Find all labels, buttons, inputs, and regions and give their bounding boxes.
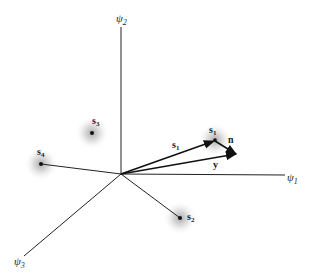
label-vector-y: y <box>213 159 218 170</box>
label-vector-n: n <box>228 134 234 145</box>
label-psi2: ψ2 <box>116 12 127 27</box>
vector-s1 <box>121 141 214 174</box>
point-s3 <box>90 131 94 135</box>
line-to-s2 <box>121 174 180 218</box>
axis-psi3 <box>24 174 121 256</box>
label-vector-s1: s1 <box>172 139 180 152</box>
point-s2 <box>178 216 182 220</box>
point-s4 <box>39 162 43 166</box>
point-s1 <box>213 138 217 142</box>
vector-y <box>121 154 236 174</box>
label-psi3: ψ3 <box>14 255 25 270</box>
label-psi1: ψ1 <box>287 171 298 186</box>
axis-psi1 <box>121 174 285 175</box>
signal-space-diagram: ψ2 ψ1 ψ3 s1 s2 s3 s4 s1 n y <box>0 0 309 273</box>
